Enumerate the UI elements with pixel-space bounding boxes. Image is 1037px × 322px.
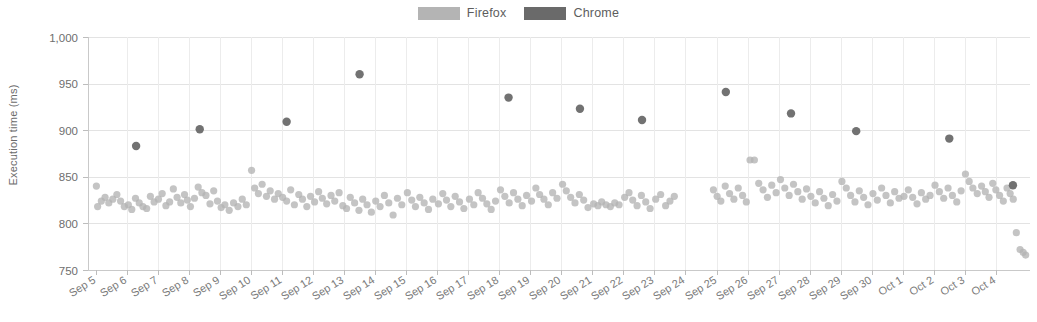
series-points-chrome bbox=[132, 70, 1017, 189]
data-point-firefox bbox=[514, 196, 521, 203]
x-axis-ticks: Sep 5Sep 6Sep 7Sep 8Sep 9Sep 10Sep 11Sep… bbox=[67, 270, 998, 302]
data-point-firefox bbox=[958, 187, 965, 194]
x-tick-label: Sep 12 bbox=[279, 274, 315, 303]
data-point-firefox bbox=[571, 199, 578, 206]
scatter-plot-svg: 7508008509009501,000 Sep 5Sep 6Sep 7Sep … bbox=[0, 0, 1037, 322]
x-tick-label: Sep 11 bbox=[248, 274, 283, 302]
data-point-firefox bbox=[887, 199, 894, 206]
data-point-firefox bbox=[506, 199, 513, 206]
x-tick-label: Sep 20 bbox=[527, 274, 563, 303]
data-point-firefox bbox=[355, 207, 362, 214]
data-point-firefox bbox=[743, 198, 750, 205]
data-point-firefox bbox=[940, 195, 947, 202]
data-point-firefox bbox=[177, 199, 184, 206]
data-point-firefox bbox=[559, 181, 566, 188]
data-point-chrome bbox=[787, 109, 795, 117]
x-tick-label: Sep 7 bbox=[129, 274, 160, 299]
data-point-firefox bbox=[331, 197, 338, 204]
data-point-firefox bbox=[905, 186, 912, 193]
data-point-firefox bbox=[443, 197, 450, 204]
data-point-firefox bbox=[259, 181, 266, 188]
data-point-firefox bbox=[838, 178, 845, 185]
data-point-firefox bbox=[647, 205, 654, 212]
data-point-firefox bbox=[580, 197, 587, 204]
data-point-firefox bbox=[234, 203, 241, 210]
data-point-firefox bbox=[488, 206, 495, 213]
x-tick-label: Sep 18 bbox=[465, 274, 501, 303]
data-point-firefox bbox=[202, 192, 209, 199]
data-point-chrome bbox=[576, 105, 584, 113]
data-point-firefox bbox=[755, 180, 762, 187]
x-tick-label: Sep 19 bbox=[496, 274, 532, 303]
data-point-firefox bbox=[532, 184, 539, 191]
data-point-firefox bbox=[291, 201, 298, 208]
data-point-firefox bbox=[989, 180, 996, 187]
data-point-firefox bbox=[878, 184, 885, 191]
x-tick-label: Sep 26 bbox=[714, 274, 750, 303]
data-point-firefox bbox=[900, 193, 907, 200]
data-point-firefox bbox=[768, 182, 775, 189]
data-point-firefox bbox=[287, 186, 294, 193]
data-point-firefox bbox=[267, 187, 274, 194]
data-point-firefox bbox=[206, 200, 213, 207]
data-point-firefox bbox=[191, 195, 198, 202]
data-point-firefox bbox=[874, 197, 881, 204]
data-point-firefox bbox=[790, 181, 797, 188]
data-point-firefox bbox=[803, 185, 810, 192]
data-point-firefox bbox=[722, 183, 729, 190]
data-point-firefox bbox=[918, 189, 925, 196]
data-point-firefox bbox=[336, 189, 343, 196]
data-point-firefox bbox=[882, 192, 889, 199]
data-point-firefox bbox=[398, 201, 405, 208]
data-point-firefox bbox=[1010, 196, 1017, 203]
data-point-firefox bbox=[343, 205, 350, 212]
data-point-firefox bbox=[545, 201, 552, 208]
data-point-firefox bbox=[962, 170, 969, 177]
data-point-firefox bbox=[425, 206, 432, 213]
data-point-firefox bbox=[184, 197, 191, 204]
x-tick-label: Sep 15 bbox=[372, 274, 408, 303]
data-point-firefox bbox=[385, 199, 392, 206]
data-point-firefox bbox=[751, 156, 758, 163]
data-point-firefox bbox=[807, 193, 814, 200]
x-tick-label: Sep 9 bbox=[191, 274, 222, 299]
data-point-firefox bbox=[351, 199, 358, 206]
x-tick-label: Oct 2 bbox=[907, 274, 936, 298]
data-point-firefox bbox=[390, 211, 397, 218]
data-point-firefox bbox=[909, 194, 916, 201]
data-point-firefox bbox=[735, 184, 742, 191]
x-tick-label: Sep 27 bbox=[745, 274, 781, 303]
x-tick-label: Oct 1 bbox=[876, 274, 905, 298]
data-point-chrome bbox=[282, 118, 290, 126]
data-point-firefox bbox=[404, 189, 411, 196]
y-tick-label: 750 bbox=[59, 265, 78, 277]
data-point-firefox bbox=[528, 197, 535, 204]
data-point-firefox bbox=[799, 196, 806, 203]
data-point-firefox bbox=[642, 198, 649, 205]
data-point-firefox bbox=[820, 195, 827, 202]
data-point-firefox bbox=[829, 191, 836, 198]
data-point-chrome bbox=[722, 88, 730, 96]
data-point-firefox bbox=[303, 203, 310, 210]
data-point-firefox bbox=[470, 201, 477, 208]
data-point-chrome bbox=[852, 127, 860, 135]
execution-time-scatter-chart: Firefox Chrome Execution time (ms) 75080… bbox=[0, 0, 1037, 322]
data-point-firefox bbox=[523, 192, 530, 199]
data-point-firefox bbox=[812, 199, 819, 206]
data-point-firefox bbox=[187, 203, 194, 210]
data-point-firefox bbox=[931, 182, 938, 189]
data-point-firefox bbox=[363, 201, 370, 208]
y-tick-label: 900 bbox=[59, 125, 78, 137]
data-point-firefox bbox=[368, 209, 375, 216]
data-point-firefox bbox=[492, 197, 499, 204]
data-point-firefox bbox=[847, 192, 854, 199]
data-point-chrome bbox=[196, 125, 204, 133]
data-point-firefox bbox=[563, 187, 570, 194]
x-tick-label: Sep 6 bbox=[98, 274, 129, 299]
data-point-firefox bbox=[944, 184, 951, 191]
x-tick-label: Sep 21 bbox=[558, 274, 594, 303]
x-tick-label: Sep 5 bbox=[67, 274, 98, 299]
data-point-firefox bbox=[913, 200, 920, 207]
data-point-firefox bbox=[786, 192, 793, 199]
data-point-firefox bbox=[869, 190, 876, 197]
